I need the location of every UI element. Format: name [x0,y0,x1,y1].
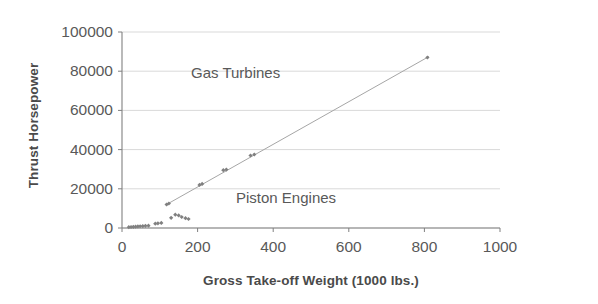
data-point [156,221,160,225]
x-tick-label: 200 [185,239,211,255]
chart-figure: Thrust Horsepower 1000008000060000400002… [0,0,598,304]
x-axis-tick-labels: 02004006008001000 [0,239,598,261]
x-tick-label: 600 [336,239,362,255]
y-tick-label: 0 [0,220,113,236]
y-tick-label: 40000 [0,142,113,158]
x-tick-label: 800 [411,239,437,255]
x-axis-tickmarks [122,228,500,232]
data-point [173,213,177,217]
x-tick-label: 1000 [483,239,517,255]
x-tick-label: 0 [118,239,127,255]
data-point [425,55,429,59]
y-tick-label: 60000 [0,103,113,119]
y-tick-label: 20000 [0,181,113,197]
annotation-piston-engines: Piston Engines [236,190,336,205]
y-tick-label: 80000 [0,63,113,79]
data-point [183,216,187,220]
y-tick-label: 100000 [0,24,113,40]
data-point [159,221,163,225]
data-point [248,153,252,157]
data-point [169,216,173,220]
data-point [146,224,150,228]
data-point [186,217,190,221]
x-tick-label: 400 [260,239,286,255]
x-axis-title: Gross Take-off Weight (1000 lbs.) [122,273,500,288]
annotation-gas-turbines: Gas Turbines [191,65,280,80]
